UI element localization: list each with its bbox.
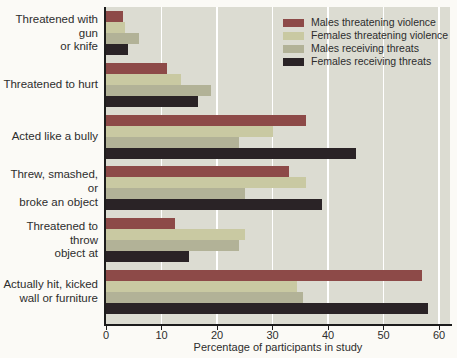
- bar-females-receiving-threats-cat0: [106, 44, 128, 55]
- bar-females-threatening-violence-cat3: [106, 177, 306, 188]
- bar-males-receiving-threats-cat2: [106, 137, 239, 148]
- legend: Males threatening violenceFemales threat…: [283, 16, 448, 68]
- legend-swatch-1: [283, 32, 304, 40]
- bar-females-threatening-violence-cat1: [106, 74, 181, 85]
- tick-label-30: 30: [258, 329, 288, 341]
- tick-label-20: 20: [202, 329, 232, 341]
- bar-females-threatening-violence-cat2: [106, 126, 273, 137]
- bar-females-threatening-violence-cat4: [106, 229, 245, 240]
- bar-males-receiving-threats-cat5: [106, 292, 303, 303]
- x-axis-title: Percentage of participants in study: [106, 341, 450, 353]
- bar-males-threatening-violence-cat2: [106, 115, 306, 126]
- bar-females-receiving-threats-cat2: [106, 148, 356, 159]
- bar-females-receiving-threats-cat5: [106, 303, 428, 314]
- bar-males-receiving-threats-cat1: [106, 85, 211, 96]
- category-label-2: Acted like a bully: [0, 130, 98, 144]
- category-label-1: Threatened to hurt: [0, 78, 98, 92]
- legend-item-3: Females receiving threats: [283, 55, 448, 68]
- legend-label-2: Males receiving threats: [311, 42, 419, 55]
- bar-males-threatening-violence-cat0: [106, 11, 123, 22]
- legend-label-0: Males threatening violence: [311, 16, 436, 29]
- bar-males-receiving-threats-cat0: [106, 33, 139, 44]
- bar-males-threatening-violence-cat1: [106, 63, 167, 74]
- legend-swatch-0: [283, 19, 304, 27]
- legend-swatch-3: [283, 58, 304, 66]
- category-label-5: Actually hit, kicked wall or furniture: [0, 278, 98, 305]
- category-label-0: Threatened with gun or knife: [0, 13, 98, 54]
- bar-females-receiving-threats-cat3: [106, 199, 322, 210]
- bar-males-threatening-violence-cat4: [106, 218, 175, 229]
- legend-item-2: Males receiving threats: [283, 42, 448, 55]
- tick-label-60: 60: [424, 329, 454, 341]
- tick-label-10: 10: [147, 329, 177, 341]
- legend-label-1: Females threatening violence: [311, 29, 448, 42]
- legend-item-1: Females threatening violence: [283, 29, 448, 42]
- tick-label-50: 50: [369, 329, 399, 341]
- tick-label-40: 40: [313, 329, 343, 341]
- bar-females-threatening-violence-cat0: [106, 22, 125, 33]
- bar-males-receiving-threats-cat3: [106, 188, 245, 199]
- bar-females-receiving-threats-cat4: [106, 251, 189, 262]
- bar-males-threatening-violence-cat3: [106, 166, 289, 177]
- category-label-3: Threw, smashed, or broke an object: [0, 168, 98, 209]
- chart-figure: Males threatening violenceFemales threat…: [0, 0, 457, 358]
- x-axis-line: [104, 324, 452, 326]
- bar-females-receiving-threats-cat1: [106, 96, 198, 107]
- tick-label-0: 0: [91, 329, 121, 341]
- bar-females-threatening-violence-cat5: [106, 281, 297, 292]
- plot-area: Males threatening violenceFemales threat…: [106, 7, 450, 325]
- bar-males-threatening-violence-cat5: [106, 270, 422, 281]
- category-label-4: Threatened to throw object at: [0, 220, 98, 261]
- legend-item-0: Males threatening violence: [283, 16, 448, 29]
- legend-swatch-2: [283, 45, 304, 53]
- bar-males-receiving-threats-cat4: [106, 240, 239, 251]
- legend-label-3: Females receiving threats: [311, 55, 431, 68]
